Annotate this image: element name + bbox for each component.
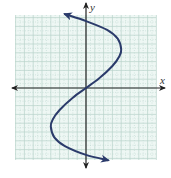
y-axis-label: y xyxy=(90,2,95,13)
x-axis-label: x xyxy=(160,75,165,86)
graph xyxy=(0,0,171,178)
